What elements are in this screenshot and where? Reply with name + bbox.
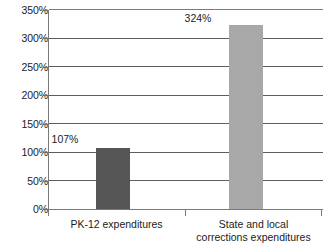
- bar-fill: [96, 148, 130, 209]
- x-axis-category-label-line: corrections expenditures: [185, 231, 322, 244]
- plot-area: [48, 10, 323, 210]
- y-axis-tick-label-350: 350%: [2, 5, 48, 15]
- bar-state-and-local-corrections-expenditures[interactable]: [229, 25, 263, 209]
- y-axis-tick-label-300: 300%: [2, 33, 48, 43]
- y-axis-tick-label-150: 150%: [2, 119, 48, 129]
- gridline-200: [49, 95, 323, 96]
- y-axis-tick-label-0: 0%: [2, 204, 48, 214]
- bar-value-label-pk-12: 107%: [30, 134, 100, 145]
- bar-pk-12-expenditures[interactable]: [96, 148, 130, 209]
- gridline-250: [49, 66, 323, 67]
- x-axis-tick-mark-end: [321, 210, 322, 216]
- y-axis-tick-label-100: 100%: [2, 147, 48, 157]
- gridline-300: [49, 38, 323, 39]
- x-axis-category-label-line: State and local: [219, 218, 288, 230]
- gridline-350: [49, 9, 323, 10]
- x-axis-category-label-line: PK-12 expenditures: [70, 218, 162, 230]
- y-axis-tick-label-250: 250%: [2, 62, 48, 72]
- x-axis-category-label-corrections: State and local corrections expenditures: [185, 218, 322, 243]
- x-axis-category-label-pk-12: PK-12 expenditures: [48, 218, 185, 231]
- gridline-100: [49, 152, 323, 153]
- x-axis-tick-mark-middle: [185, 210, 186, 216]
- gridline-150: [49, 123, 323, 124]
- y-axis-tick-label-50: 50%: [2, 176, 48, 186]
- bar-fill: [229, 25, 263, 209]
- bar-value-label-corrections: 324%: [163, 13, 233, 24]
- y-axis-tick-label-200: 200%: [2, 90, 48, 100]
- gridline-50: [49, 180, 323, 181]
- bar-chart: 350% 300% 250% 200% 150% 100% 50% 0% 107…: [0, 0, 329, 248]
- x-axis-tick-mark-start: [48, 210, 49, 216]
